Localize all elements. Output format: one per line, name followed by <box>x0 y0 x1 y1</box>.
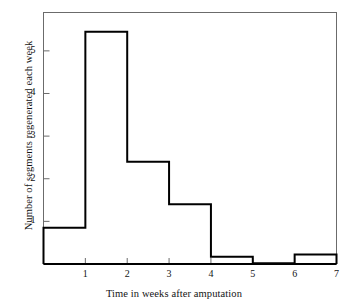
x-tick-label: 3 <box>161 268 177 279</box>
y-axis-ticks <box>44 51 50 222</box>
x-axis-label: Time in weeks after amputation <box>0 288 348 299</box>
plot-frame <box>44 13 337 265</box>
histogram-outline <box>44 32 337 264</box>
chart-canvas <box>0 0 348 307</box>
x-tick-label: 1 <box>77 268 93 279</box>
x-tick-label: 2 <box>119 268 135 279</box>
y-axis-label: Number of segments regenerated each week <box>23 16 34 256</box>
x-tick-label: 5 <box>245 268 261 279</box>
histogram-figure: 12345 1234567 Number of segments regener… <box>0 0 348 307</box>
x-tick-label: 7 <box>329 268 345 279</box>
x-tick-label: 4 <box>203 268 219 279</box>
x-tick-label: 6 <box>287 268 303 279</box>
histogram-bars <box>44 32 337 264</box>
